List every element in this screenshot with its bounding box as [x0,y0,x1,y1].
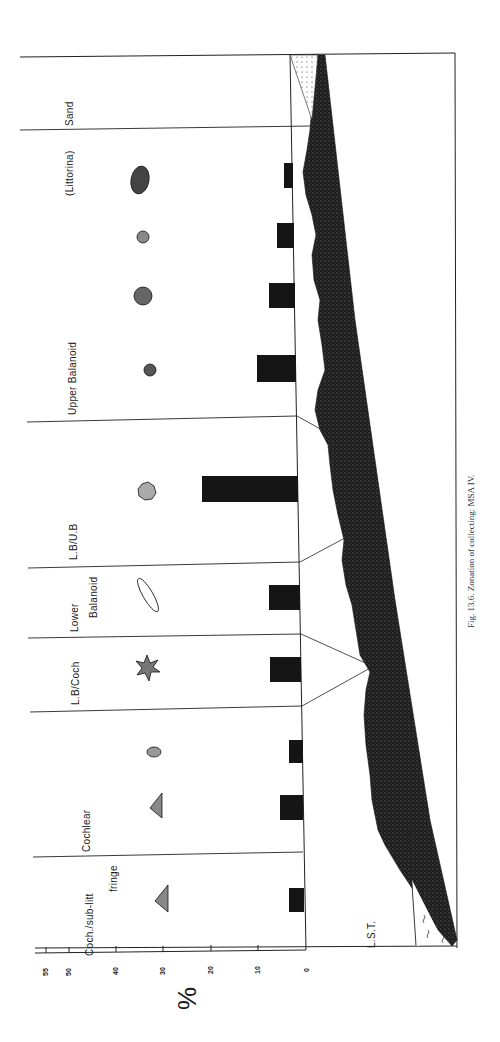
zone-label-balanoid: Balanoid [88,577,99,618]
zone-label-upper-balanoid: Upper Balanoid [67,342,78,415]
zone-label-coch-sublitt: Coch./sub-litt [84,893,95,956]
bar-lower-balanoid [269,585,300,610]
bar-coch-sublitt [289,888,304,912]
bar-cochlear-1 [289,740,303,763]
bar-littorina-3 [269,283,295,308]
bar-upper-balanoid [257,355,296,382]
tick-label-0: 0 [303,968,310,972]
zone-label-lb-ub: L.B/U.B [68,523,79,560]
shell-icons [129,165,168,912]
cone-shell-icon [147,747,161,757]
zone-label-littorina: (Littorina) [64,150,75,196]
barnacle-shell-icon [144,364,156,376]
bar-littorina-2 [277,223,294,248]
zone-label-cochlear: Cochlear [81,810,92,852]
topshell-icon [134,287,152,305]
tick-label-10: 10 [254,966,261,974]
zone-label-lower: Lower [69,603,80,632]
zone-label-fringe: fringe [108,865,119,892]
axis-title-percent: % [172,987,203,1010]
tick-label-30: 30 [159,967,166,975]
zonation-chart-graphics [0,0,500,1042]
rock-profile [303,55,457,946]
tick-label-40: 40 [112,967,119,975]
percent-axis [35,945,306,953]
bars [202,163,304,912]
tick-label-50: 50 [65,968,72,976]
star-shell-icon [136,655,160,681]
mussel-shell-icon [134,576,162,614]
limpet-shell-icon [137,231,149,243]
bar-littorina-1 [284,163,293,188]
bar-lb-coch [270,657,301,682]
figure-caption: Fig. 13.6. Zonation of collecting: MSA I… [466,475,476,628]
littorina-shell-icon [129,165,152,196]
fringe-fan-icon [155,885,168,912]
tick-label-20: 20 [207,966,214,974]
zone-label-sand: Sand [64,101,75,126]
rosette-shell-icon [138,482,156,500]
cochlear-fan-icon [150,793,162,818]
tick-label-55: 55 [42,968,49,976]
zone-label-lb-coch: L.B/Coch [70,661,81,705]
bar-lb-ub [202,476,298,502]
annotation-lst: L.S.T. [366,921,377,948]
bar-cochlear-2 [280,795,303,820]
